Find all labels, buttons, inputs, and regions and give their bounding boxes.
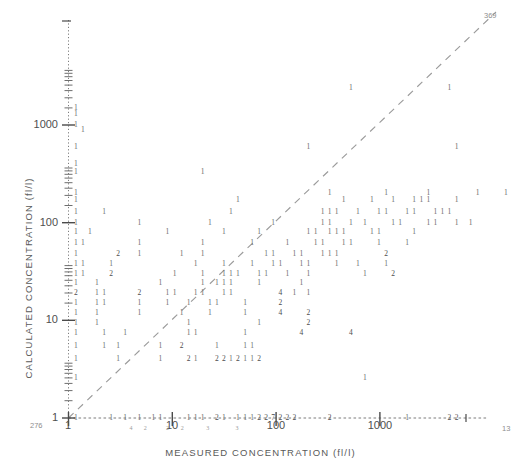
below-axis-count-mark: 4 [129, 425, 132, 433]
x-axis-title: MEASURED CONCENTRATION (fl/l) [0, 447, 521, 458]
y-axis-title: CALCULATED CONCENTRATION (fl/l) [23, 138, 34, 418]
scatter-plot-figure: 1 10 100 1000 1 10 100 1000 369 276 13 1… [0, 0, 521, 472]
below-axis-count-mark: 3 [206, 425, 209, 433]
below-axis-marks-layer: 422233 [0, 0, 521, 472]
below-axis-count-mark: 3 [235, 425, 238, 433]
below-axis-count-mark: 2 [181, 425, 184, 433]
below-axis-count-mark: 2 [166, 425, 169, 433]
below-axis-count-mark: 2 [144, 425, 147, 433]
